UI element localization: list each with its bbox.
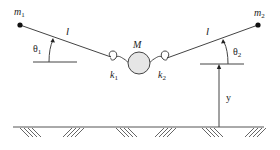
label-l-left: l [66,25,69,37]
label-y: y [226,92,231,103]
pendulum-spring-mass-diagram: m1 m2 l l M θ1 θ2 k1 k2 y [0,0,280,150]
label-theta2: θ2 [233,46,242,59]
theta1-arrowhead-icon [51,38,56,43]
label-l-right: l [206,25,209,37]
label-k1: k1 [110,69,118,82]
spring-k1-icon [109,51,128,62]
y-arrowhead-icon [217,64,221,69]
central-mass-M [128,52,150,74]
label-m2: m2 [254,7,265,20]
mass-m1-dot [17,22,22,27]
right-rod [167,25,258,58]
theta2-arrowhead-icon [221,39,226,44]
theta2-arc [224,42,228,64]
theta1-arc [49,40,53,62]
spring-k2-icon [150,51,169,62]
label-theta1: θ1 [33,43,42,56]
label-m1: m1 [14,6,25,19]
label-M: M [132,39,142,50]
label-k2: k2 [158,69,166,82]
ground-hatching [20,128,266,137]
mass-m2-dot [255,22,260,27]
